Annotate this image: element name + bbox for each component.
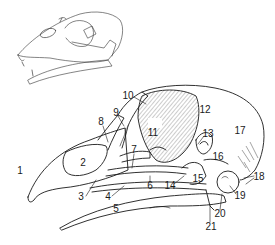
label-13: 13 [202, 129, 213, 139]
label-2: 2 [80, 158, 86, 168]
skull-diagram: 1 2 3 4 5 6 7 8 9 10 11 12 13 14 15 16 1… [0, 0, 275, 245]
label-9: 9 [113, 108, 119, 118]
label-4: 4 [105, 192, 111, 202]
label-10: 10 [122, 91, 133, 101]
label-14: 14 [164, 181, 175, 191]
label-1: 1 [17, 166, 23, 176]
label-15: 15 [192, 174, 203, 184]
label-19: 19 [234, 191, 245, 201]
label-17: 17 [234, 126, 245, 136]
label-16: 16 [212, 152, 223, 162]
label-5: 5 [113, 204, 119, 214]
label-12: 12 [199, 105, 210, 115]
label-7: 7 [131, 145, 137, 155]
label-20: 20 [214, 209, 225, 219]
main-skull-drawing [0, 0, 275, 245]
label-18: 18 [253, 172, 264, 182]
label-11: 11 [148, 128, 158, 138]
label-6: 6 [147, 181, 153, 191]
label-21: 21 [205, 222, 216, 232]
label-8: 8 [98, 117, 104, 127]
label-3: 3 [78, 192, 84, 202]
